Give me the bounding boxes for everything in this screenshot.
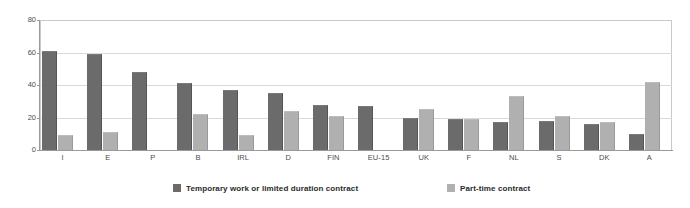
x-axis-labels: IEPBIRLDFINEU-15UKFNLSDKA <box>40 153 672 167</box>
bar-parttime <box>284 111 299 150</box>
x-tick-label: NL <box>491 153 536 162</box>
bar-group <box>446 20 491 150</box>
x-tick-label: P <box>130 153 175 162</box>
bar-group <box>627 20 672 150</box>
bar-temporary <box>177 83 192 150</box>
x-tick-label: I <box>40 153 85 162</box>
bar-parttime <box>329 116 344 150</box>
x-tick-label: S <box>537 153 582 162</box>
bar-parttime <box>509 96 524 150</box>
bar-group <box>85 20 130 150</box>
bar-parttime <box>193 114 208 150</box>
y-tick-label: 80 <box>0 16 36 24</box>
bar-group <box>356 20 401 150</box>
x-tick-label: DK <box>582 153 627 162</box>
y-tick-label: 40 <box>0 81 36 89</box>
bar-parttime <box>645 82 660 150</box>
bar-group <box>130 20 175 150</box>
x-tick-label: A <box>627 153 672 162</box>
bar-temporary <box>132 72 147 150</box>
legend-swatch-icon <box>173 184 181 192</box>
x-tick-label: IRL <box>221 153 266 162</box>
bar-group <box>221 20 266 150</box>
bar-parttime <box>555 116 570 150</box>
bars-layer <box>40 20 672 150</box>
bar-temporary <box>584 124 599 150</box>
legend-item-temporary: Temporary work or limited duration contr… <box>173 182 358 194</box>
y-tick-label: 60 <box>0 49 36 57</box>
bar-group <box>491 20 536 150</box>
x-tick-label: EU-15 <box>356 153 401 162</box>
bar-parttime <box>600 122 615 150</box>
x-axis-line <box>39 150 673 151</box>
bar-temporary <box>223 90 238 150</box>
bar-temporary <box>493 122 508 150</box>
bar-temporary <box>448 119 463 150</box>
bar-parttime <box>58 135 73 150</box>
y-tick-label: 0 <box>0 146 36 154</box>
bar-temporary <box>268 93 283 150</box>
bar-group <box>311 20 356 150</box>
x-tick-label: B <box>175 153 220 162</box>
legend-swatch-icon <box>447 184 455 192</box>
bar-group <box>175 20 220 150</box>
bar-parttime <box>239 135 254 150</box>
bar-group <box>266 20 311 150</box>
bar-temporary <box>403 118 418 151</box>
legend-item-parttime: Part-time contract <box>447 182 530 194</box>
legend-label: Part-time contract <box>460 184 530 193</box>
bar-group <box>40 20 85 150</box>
chart-legend: Temporary work or limited duration contr… <box>0 182 690 198</box>
x-tick-label: UK <box>401 153 446 162</box>
bar-group <box>401 20 446 150</box>
bar-temporary <box>42 51 57 150</box>
bar-temporary <box>629 134 644 150</box>
bar-temporary <box>87 54 102 150</box>
bar-parttime <box>464 119 479 150</box>
bar-temporary <box>539 121 554 150</box>
y-tick-label: 20 <box>0 114 36 122</box>
legend-label: Temporary work or limited duration contr… <box>186 184 358 193</box>
x-tick-label: E <box>85 153 130 162</box>
bar-temporary <box>358 106 373 150</box>
bar-parttime <box>103 132 118 150</box>
x-tick-label: D <box>266 153 311 162</box>
bar-parttime <box>419 109 434 150</box>
bar-temporary <box>313 105 328 151</box>
bar-chart: 020406080 IEPBIRLDFINEU-15UKFNLSDKA Temp… <box>0 0 690 208</box>
bar-group <box>537 20 582 150</box>
x-tick-label: FIN <box>311 153 356 162</box>
x-tick-label: F <box>446 153 491 162</box>
bar-group <box>582 20 627 150</box>
